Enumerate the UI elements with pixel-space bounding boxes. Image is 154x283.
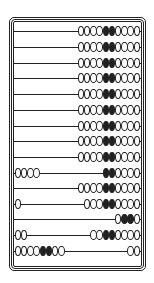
bead-light[interactable] xyxy=(127,105,133,115)
abacus-rod xyxy=(14,121,141,131)
bead-light[interactable] xyxy=(96,230,102,240)
bead-group-left xyxy=(15,246,65,256)
bead-light[interactable] xyxy=(33,168,39,178)
bead-light[interactable] xyxy=(127,199,133,209)
bead-light[interactable] xyxy=(134,214,140,224)
bead-light[interactable] xyxy=(96,26,102,36)
bead-dark[interactable] xyxy=(127,214,133,224)
bead-light[interactable] xyxy=(96,58,102,68)
bead-light[interactable] xyxy=(96,136,102,146)
bead-group-right xyxy=(78,26,140,36)
bead-group-right xyxy=(115,214,140,224)
bead-group-right xyxy=(78,121,140,131)
bead-light[interactable] xyxy=(96,183,102,193)
abacus-rod xyxy=(14,152,141,162)
bead-group-right xyxy=(78,89,140,99)
bead-light[interactable] xyxy=(134,89,140,99)
bead-light[interactable] xyxy=(134,136,140,146)
bead-light[interactable] xyxy=(127,73,133,83)
bead-light[interactable] xyxy=(134,230,140,240)
bead-light[interactable] xyxy=(15,199,21,209)
abacus-rod xyxy=(14,168,141,178)
bead-light[interactable] xyxy=(58,246,64,256)
bead-light[interactable] xyxy=(127,230,133,240)
bead-group-right xyxy=(78,183,140,193)
bead-light[interactable] xyxy=(21,230,27,240)
bead-group-left xyxy=(15,168,40,178)
bead-light[interactable] xyxy=(134,121,140,131)
bead-light[interactable] xyxy=(134,199,140,209)
abacus-rod xyxy=(14,214,141,224)
bead-group-right xyxy=(78,105,140,115)
bead-light[interactable] xyxy=(127,152,133,162)
bead-light[interactable] xyxy=(96,42,102,52)
bead-light[interactable] xyxy=(96,73,102,83)
abacus-rod xyxy=(14,73,141,83)
bead-light[interactable] xyxy=(127,26,133,36)
bead-group-right xyxy=(78,136,140,146)
bead-light[interactable] xyxy=(96,89,102,99)
bead-group-right xyxy=(78,58,140,68)
bead-light[interactable] xyxy=(134,105,140,115)
abacus-rod xyxy=(14,183,141,193)
abacus-rod xyxy=(14,136,141,146)
bead-light[interactable] xyxy=(96,152,102,162)
bead-group-right xyxy=(103,168,140,178)
bead-light[interactable] xyxy=(127,168,133,178)
bead-light[interactable] xyxy=(134,168,140,178)
bead-light[interactable] xyxy=(127,42,133,52)
abacus-rod xyxy=(14,89,141,99)
bead-group-right xyxy=(78,42,140,52)
abacus-rod xyxy=(14,230,141,240)
bead-light[interactable] xyxy=(134,246,140,256)
abacus-rod xyxy=(14,199,141,209)
bead-light[interactable] xyxy=(134,58,140,68)
bead-light[interactable] xyxy=(127,89,133,99)
bead-light[interactable] xyxy=(96,105,102,115)
abacus-rod xyxy=(14,26,141,36)
bead-light[interactable] xyxy=(134,152,140,162)
bead-group-left xyxy=(15,230,27,240)
abacus-rod xyxy=(14,246,141,256)
bead-light[interactable] xyxy=(127,246,133,256)
bead-light[interactable] xyxy=(127,136,133,146)
bead-light[interactable] xyxy=(96,121,102,131)
abacus-rod xyxy=(14,105,141,115)
bead-light[interactable] xyxy=(134,42,140,52)
bead-light[interactable] xyxy=(127,183,133,193)
bead-group-right xyxy=(90,230,140,240)
bead-group-left xyxy=(15,199,21,209)
bead-group-right xyxy=(128,246,140,256)
bead-light[interactable] xyxy=(127,121,133,131)
bead-group-right xyxy=(84,199,140,209)
abacus-rod xyxy=(14,42,141,52)
bead-light[interactable] xyxy=(134,26,140,36)
bead-light[interactable] xyxy=(127,58,133,68)
bead-group-right xyxy=(78,152,140,162)
bead-light[interactable] xyxy=(134,73,140,83)
bead-light[interactable] xyxy=(33,246,39,256)
bead-light[interactable] xyxy=(134,183,140,193)
bead-group-right xyxy=(78,73,140,83)
abacus-rod xyxy=(14,58,141,68)
bead-light[interactable] xyxy=(96,199,102,209)
